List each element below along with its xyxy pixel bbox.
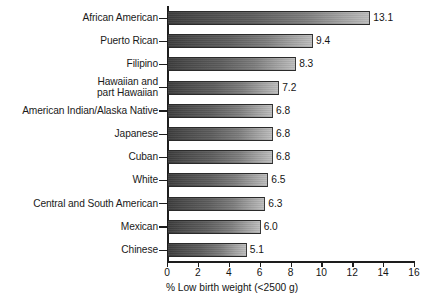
bar-row: 6.8 <box>168 104 415 118</box>
bar-value-label: 6.5 <box>271 173 285 187</box>
x-axis-title-text: % Low birth weight (<2500 g) <box>166 282 298 294</box>
bar <box>168 11 370 25</box>
y-axis-tick <box>159 134 167 135</box>
y-axis-tick <box>159 157 167 158</box>
bar-row: 6.8 <box>168 150 415 164</box>
x-axis-tick-label: 2 <box>195 267 201 279</box>
bar-row: 6.0 <box>168 220 415 234</box>
bar-row: 6.8 <box>168 127 415 141</box>
bar-value-label: 7.2 <box>282 81 296 95</box>
bar-value-label: 8.3 <box>299 57 313 71</box>
bar-value-label: 13.1 <box>373 11 393 25</box>
category-label: Cuban <box>0 151 158 162</box>
bar-value-label: 5.1 <box>250 243 264 257</box>
bar-value-label: 6.8 <box>276 104 290 118</box>
bar-row: 13.1 <box>168 11 415 25</box>
bar-row: 9.4 <box>168 34 415 48</box>
x-axis-tick-label: 8 <box>288 267 294 279</box>
plot-area: 13.19.48.37.26.86.86.86.56.36.05.1024681… <box>167 0 417 262</box>
x-axis-tick-label: 12 <box>347 267 358 279</box>
bar-row: 8.3 <box>168 57 415 71</box>
y-axis-tick <box>159 226 167 227</box>
bar <box>168 197 265 211</box>
bar <box>168 243 247 257</box>
y-axis-tick <box>159 64 167 65</box>
y-axis-tick <box>159 87 167 88</box>
bar-row: 7.2 <box>168 81 415 95</box>
bar <box>168 173 268 187</box>
bar-row: 5.1 <box>168 243 415 257</box>
bar-value-label: 9.4 <box>316 34 330 48</box>
bar <box>168 127 273 141</box>
category-label: American Indian/Alaska Native <box>0 105 158 116</box>
x-axis-tick-label: 10 <box>316 267 327 279</box>
y-axis-tick <box>159 180 167 181</box>
category-label: Puerto Rican <box>0 35 158 46</box>
bar-row: 6.3 <box>168 197 415 211</box>
x-axis-tick-label: 6 <box>257 267 263 279</box>
category-label: Hawaiian and part Hawaiian <box>0 76 158 98</box>
bar-value-label: 6.3 <box>268 197 282 211</box>
category-label: White <box>0 174 158 185</box>
x-axis-tick-label: 0 <box>164 267 170 279</box>
category-label: Japanese <box>0 128 158 139</box>
category-label: Chinese <box>0 244 158 255</box>
bar-value-label: 6.8 <box>276 127 290 141</box>
bar-value-label: 6.0 <box>264 220 278 234</box>
y-axis-tick <box>159 110 167 111</box>
bar <box>168 81 279 95</box>
x-axis-tick-label: 4 <box>226 267 232 279</box>
x-axis-tick-label: 16 <box>408 267 419 279</box>
y-axis-tick <box>159 203 167 204</box>
bar <box>168 220 261 234</box>
bar <box>168 104 273 118</box>
x-axis-tick-label: 14 <box>377 267 388 279</box>
bar-value-label: 6.8 <box>276 150 290 164</box>
bar <box>168 57 296 71</box>
bar <box>168 150 273 164</box>
category-label: Central and South American <box>0 198 158 209</box>
y-axis-tick <box>159 41 167 42</box>
category-label: Filipino <box>0 58 158 69</box>
category-axis-labels: African AmericanPuerto RicanFilipinoHawa… <box>0 0 158 262</box>
category-label: Mexican <box>0 221 158 232</box>
bar-row: 6.5 <box>168 173 415 187</box>
low-birth-weight-bar-chart: African AmericanPuerto RicanFilipinoHawa… <box>0 0 428 304</box>
x-axis-title: % Low birth weight (<2500 g) <box>0 282 428 294</box>
bar <box>168 34 313 48</box>
y-axis-tick <box>159 250 167 251</box>
category-label: African American <box>0 12 158 23</box>
y-axis-tick <box>159 18 167 19</box>
